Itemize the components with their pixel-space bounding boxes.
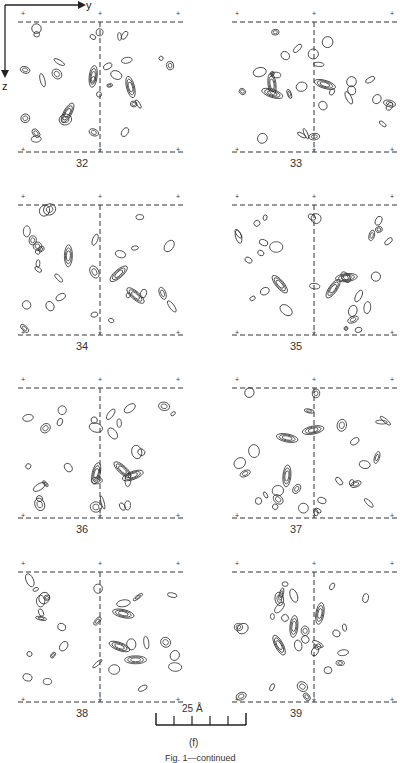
part-label: (f) xyxy=(189,737,198,748)
svg-text:+: + xyxy=(176,193,180,200)
svg-text:+: + xyxy=(176,560,180,567)
svg-text:+: + xyxy=(390,193,394,200)
svg-text:+: + xyxy=(21,193,25,200)
svg-text:+: + xyxy=(235,560,239,567)
svg-text:+: + xyxy=(176,696,180,703)
contour-panel-37: ++++++37 xyxy=(232,376,397,536)
svg-text:+: + xyxy=(235,10,239,17)
contour-panel-36: ++++++36 xyxy=(18,376,183,536)
contour-panel-39: ++++++39 xyxy=(232,560,397,720)
svg-text:+: + xyxy=(21,512,25,519)
svg-text:+: + xyxy=(390,10,394,17)
panel-number-label: 33 xyxy=(290,157,302,169)
contour-plot: ++++++ xyxy=(18,560,183,710)
contour-plot: ++++++ xyxy=(18,193,183,343)
contour-plot: ++++++ xyxy=(232,376,397,526)
svg-text:+: + xyxy=(98,376,102,383)
svg-text:+: + xyxy=(312,146,316,153)
svg-text:+: + xyxy=(235,512,239,519)
svg-text:+: + xyxy=(98,10,102,17)
contour-panel-33: ++++++33 xyxy=(232,10,397,170)
svg-text:+: + xyxy=(176,329,180,336)
svg-text:+: + xyxy=(235,193,239,200)
svg-text:+: + xyxy=(21,560,25,567)
svg-text:+: + xyxy=(98,329,102,336)
panel-number-label: 39 xyxy=(290,707,302,719)
contour-panel-34: ++++++34 xyxy=(18,193,183,353)
svg-text:+: + xyxy=(235,376,239,383)
scale-bar xyxy=(150,705,250,745)
svg-text:+: + xyxy=(176,376,180,383)
svg-text:+: + xyxy=(21,696,25,703)
svg-text:+: + xyxy=(176,146,180,153)
svg-text:+: + xyxy=(235,329,239,336)
svg-text:+: + xyxy=(98,512,102,519)
svg-text:+: + xyxy=(21,376,25,383)
contour-plot: ++++++ xyxy=(18,10,183,160)
svg-text:+: + xyxy=(176,512,180,519)
panel-number-label: 37 xyxy=(290,523,302,535)
panel-number-label: 32 xyxy=(76,157,88,169)
svg-text:+: + xyxy=(98,696,102,703)
svg-text:+: + xyxy=(390,512,394,519)
contour-plot: ++++++ xyxy=(232,193,397,343)
svg-text:+: + xyxy=(390,376,394,383)
svg-text:+: + xyxy=(98,146,102,153)
contour-plot: ++++++ xyxy=(232,560,397,710)
svg-text:+: + xyxy=(98,560,102,567)
contour-panel-38: ++++++38 xyxy=(18,560,183,720)
contour-panel-35: ++++++35 xyxy=(232,193,397,353)
svg-text:+: + xyxy=(98,193,102,200)
svg-text:+: + xyxy=(21,146,25,153)
svg-text:+: + xyxy=(235,146,239,153)
svg-text:+: + xyxy=(312,193,316,200)
svg-text:+: + xyxy=(390,329,394,336)
contour-panel-32: ++++++32 xyxy=(18,10,183,170)
svg-text:+: + xyxy=(176,10,180,17)
svg-text:+: + xyxy=(390,696,394,703)
contour-plot: ++++++ xyxy=(18,376,183,526)
svg-text:+: + xyxy=(312,376,316,383)
svg-text:+: + xyxy=(312,696,316,703)
svg-text:+: + xyxy=(390,146,394,153)
svg-text:+: + xyxy=(312,560,316,567)
contour-plot: ++++++ xyxy=(232,10,397,160)
panel-number-label: 36 xyxy=(76,523,88,535)
z-axis-label: z xyxy=(2,80,8,92)
figure-caption: Fig. 1—continued xyxy=(165,753,236,763)
svg-text:+: + xyxy=(21,10,25,17)
svg-text:+: + xyxy=(312,329,316,336)
svg-text:+: + xyxy=(312,10,316,17)
svg-text:+: + xyxy=(390,560,394,567)
panel-number-label: 34 xyxy=(76,340,88,352)
panel-number-label: 35 xyxy=(290,340,302,352)
panel-number-label: 38 xyxy=(76,707,88,719)
